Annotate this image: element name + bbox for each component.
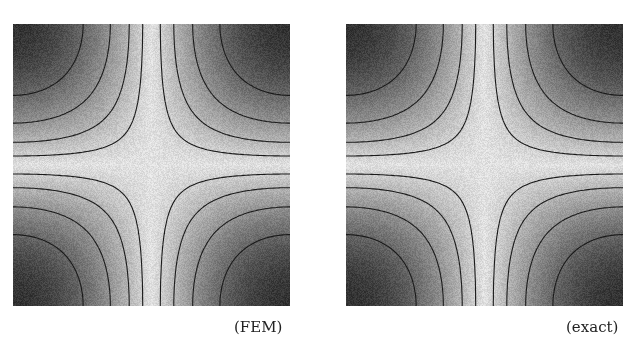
exact-contour-plot [346, 24, 623, 306]
contour-line-level-1 [346, 24, 623, 306]
contour-line-level-3 [13, 24, 290, 306]
fem-contour-plot [13, 24, 290, 306]
contour-line-level-1 [13, 24, 290, 306]
contour-line-level-2 [13, 24, 290, 306]
contour-line-level-4 [13, 24, 290, 306]
fem-caption: (FEM) [234, 318, 282, 336]
fem-contour-lines [13, 24, 290, 306]
contour-line-level-3 [346, 24, 623, 306]
contour-line-level-4 [346, 24, 623, 306]
exact-caption: (exact) [566, 318, 618, 336]
exact-contour-lines [346, 24, 623, 306]
contour-line-level-2 [346, 24, 623, 306]
